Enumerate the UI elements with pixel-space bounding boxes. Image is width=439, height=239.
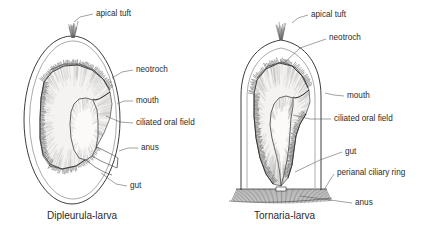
tornaria-caption: Tornaria-larva xyxy=(254,210,316,221)
dipleurula-gut-leader xyxy=(101,173,127,186)
dipleurula-label-mouth: mouth xyxy=(136,96,159,105)
dipleurula-labels: apical tuftneotrochmouthciliated oral fi… xyxy=(47,9,195,220)
tornaria-anus-leader xyxy=(300,196,352,203)
larva-comparison-figure: apical tuftneotrochmouthciliated oral fi… xyxy=(0,0,439,239)
tornaria-label-mouth: mouth xyxy=(347,91,370,100)
dipleurula-label-ciliated-oral-field: ciliated oral field xyxy=(136,118,195,127)
tornaria-labels: apical tuftneotrochmouthciliated oral fi… xyxy=(254,10,406,220)
dipleurula-label-gut: gut xyxy=(130,181,142,190)
tornaria-gut-leader xyxy=(295,152,342,172)
dipleurula-label-apical-tuft: apical tuft xyxy=(96,9,132,18)
dipleurula-anus-leader xyxy=(119,148,138,151)
tornaria-label-perianal-ciliary-ring: perianal ciliary ring xyxy=(337,168,406,177)
label-layer: apical tuftneotrochmouthciliated oral fi… xyxy=(0,0,439,239)
dipleurula-mouth-leader xyxy=(117,101,133,104)
tornaria-ciliated-oral-field-leader xyxy=(293,115,331,119)
dipleurula-ciliated-oral-field-leader xyxy=(106,116,133,123)
tornaria-mouth-leader xyxy=(325,93,344,96)
tornaria-label-neotroch: neotroch xyxy=(329,33,361,42)
dipleurula-apical-tuft-leader xyxy=(74,14,93,22)
dipleurula-caption: Dipleurula-larva xyxy=(47,210,117,221)
dipleurula-label-anus: anus xyxy=(141,143,159,152)
dipleurula-label-neotroch: neotroch xyxy=(136,65,168,74)
tornaria-label-ciliated-oral-field: ciliated oral field xyxy=(334,114,393,123)
tornaria-label-gut: gut xyxy=(345,147,357,156)
dipleurula-neotroch-leader xyxy=(112,70,133,78)
tornaria-label-apical-tuft: apical tuft xyxy=(311,10,347,19)
tornaria-apical-tuft-leader xyxy=(292,15,308,23)
tornaria-perianal-ciliary-ring-leader xyxy=(324,174,334,190)
tornaria-neotroch-leader xyxy=(283,39,326,64)
tornaria-label-anus: anus xyxy=(355,198,373,207)
